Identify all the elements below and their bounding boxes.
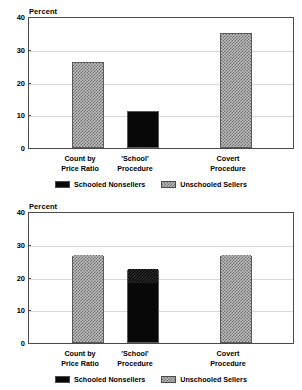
y-tickmark-10-top [28, 115, 31, 116]
y-tickmark-30-top [28, 50, 31, 51]
legend-swatch-black-icon [55, 181, 70, 188]
x-label-covert-procedure-top: Covert Procedure [189, 154, 267, 173]
bar-school-procedure-top [127, 111, 159, 148]
x-label-school-procedure-top: 'School' Procedure [96, 154, 174, 173]
y-tick-30-top: 30 [9, 46, 25, 55]
figure-page: Percent 40 30 20 10 0 Count by Price Rat… [0, 0, 302, 390]
y-tick-10-bottom: 10 [9, 306, 25, 315]
x-label-line-1: 'School' [96, 154, 174, 164]
x-label-line-2: Procedure [189, 359, 267, 369]
bar-seg-black [128, 283, 158, 342]
y-tick-20-bottom: 20 [9, 274, 25, 283]
gridline-20-top [29, 84, 293, 85]
x-label-line-1: 'School' [96, 349, 174, 359]
legend-swatch-black-icon [55, 376, 70, 383]
legend-label-schooled-nonsellers: Schooled Nonsellers [74, 180, 145, 189]
legend-label-unschooled-sellers: Unschooled Sellers [180, 375, 247, 384]
legend-swatch-hatch-icon [161, 376, 176, 383]
y-tick-30-bottom: 30 [9, 241, 25, 250]
y-tickmark-30-bottom [28, 245, 31, 246]
legend-bottom: Schooled Nonsellers Unschooled Sellers [0, 375, 302, 384]
chart-top: Percent 40 30 20 10 0 Count by Price Rat… [0, 0, 302, 195]
y-tickmark-10-bottom [28, 310, 31, 311]
y-tick-10-top: 10 [9, 111, 25, 120]
x-label-school-procedure-bottom: 'School' Procedure [96, 349, 174, 368]
legend-label-unschooled-sellers: Unschooled Sellers [180, 180, 247, 189]
x-label-line-2: Procedure [189, 164, 267, 174]
bar-seg-hatch [73, 255, 103, 342]
bar-covert-procedure-bottom [220, 256, 252, 343]
y-tick-0-top: 0 [9, 144, 25, 153]
chart-bottom: Percent 40 30 20 10 0 [0, 195, 302, 390]
y-axis-label-bottom: Percent [29, 202, 57, 211]
legend-swatch-hatch-icon [161, 181, 176, 188]
bar-seg-hatch [221, 255, 251, 342]
x-label-covert-procedure-bottom: Covert Procedure [189, 349, 267, 368]
x-label-line-1: Covert [189, 349, 267, 359]
bar-school-procedure-bottom [127, 270, 159, 343]
bar-count-by-price-ratio-bottom [72, 256, 104, 343]
y-tick-40-bottom: 40 [9, 208, 25, 217]
y-tick-0-bottom: 0 [9, 339, 25, 348]
x-label-line-2: Procedure [96, 164, 174, 174]
gridline-10-bottom [29, 311, 293, 312]
bar-count-by-price-ratio-top [72, 62, 104, 148]
y-tickmark-20-top [28, 83, 31, 84]
bar-seg-hatch [128, 269, 158, 283]
y-tick-20-top: 20 [9, 79, 25, 88]
legend-top: Schooled Nonsellers Unschooled Sellers [0, 180, 302, 189]
plot-area-top [28, 17, 294, 149]
legend-label-schooled-nonsellers: Schooled Nonsellers [74, 375, 145, 384]
y-axis-label-top: Percent [29, 7, 57, 16]
x-label-line-2: Procedure [96, 359, 174, 369]
legend-item-unschooled-sellers-top: Unschooled Sellers [161, 180, 247, 189]
bar-covert-procedure-top [220, 33, 252, 148]
gridline-30-top [29, 51, 293, 52]
plot-area-bottom [28, 212, 294, 344]
y-tickmark-20-bottom [28, 278, 31, 279]
legend-item-schooled-nonsellers-top: Schooled Nonsellers [55, 180, 145, 189]
legend-item-schooled-nonsellers-bottom: Schooled Nonsellers [55, 375, 145, 384]
gridline-10-top [29, 116, 293, 117]
legend-item-unschooled-sellers-bottom: Unschooled Sellers [161, 375, 247, 384]
y-tick-40-top: 40 [9, 13, 25, 22]
x-label-line-1: Covert [189, 154, 267, 164]
gridline-20-bottom [29, 279, 293, 280]
gridline-30-bottom [29, 246, 293, 247]
